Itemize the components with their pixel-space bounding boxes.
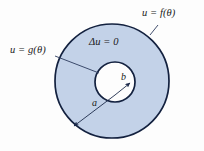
inner-radius-label: b [121,72,126,82]
laplace-equation-label: Δu = 0 [89,37,119,48]
leader-line-outer-label [150,25,158,35]
annulus-laplace-diagram: u = f(θ) u = g(θ) Δu = 0 b a [0,0,204,151]
diagram-canvas [0,0,204,151]
outer-boundary-label: u = f(θ) [142,8,175,19]
inner-circle-boundary [95,62,135,102]
outer-radius-label: a [92,98,97,108]
inner-radius-arrow [115,83,130,95]
inner-boundary-label: u = g(θ) [10,45,46,56]
